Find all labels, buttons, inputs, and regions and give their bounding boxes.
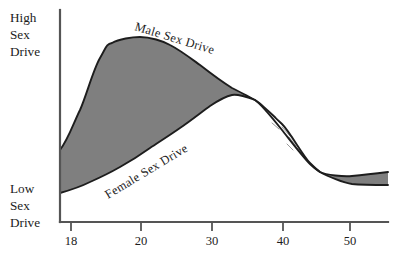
x-tick-label-20: 20 [135,234,148,248]
chart-container: 18 20 30 40 50 High Sex Drive Low Sex Dr… [0,0,408,262]
y-axis-high-label: High Sex Drive [10,10,40,59]
y-axis-high-line-2: Sex [10,27,30,42]
y-axis-high-line-3: Drive [10,44,40,59]
x-tick-label-40: 40 [277,234,290,248]
x-tick-label-18: 18 [65,234,78,248]
y-axis-low-label: Low Sex Drive [10,181,40,230]
y-axis-low-line-1: Low [10,181,35,196]
sex-drive-chart: 18 20 30 40 50 High Sex Drive Low Sex Dr… [0,0,408,262]
y-axis-high-line-1: High [10,10,37,25]
y-axis-low-line-3: Drive [10,215,40,230]
y-axis-low-line-2: Sex [10,198,30,213]
x-tick-label-30: 30 [206,234,219,248]
x-tick-label-50: 50 [344,234,357,248]
